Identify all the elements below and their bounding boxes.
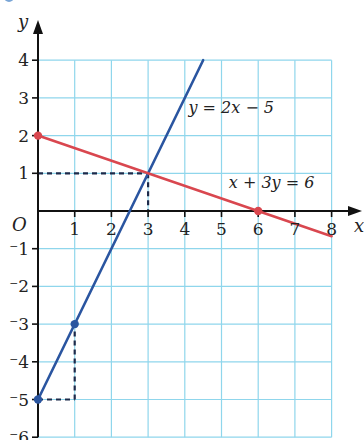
origin-label: O xyxy=(12,214,27,235)
grid xyxy=(38,60,332,437)
x-tick-label: 6 xyxy=(253,219,264,239)
y-tick-label: 4 xyxy=(18,50,29,70)
x-tick-label: 3 xyxy=(143,219,154,239)
x-tick-label: 4 xyxy=(179,219,190,239)
marked-point xyxy=(71,320,79,328)
y-tick-label: ⁻4 xyxy=(9,352,29,372)
y-tick-label: 3 xyxy=(18,88,29,108)
x-axis-label: x xyxy=(354,215,364,236)
y-tick-label: ⁻6 xyxy=(9,427,29,440)
y-tick-label: ⁻5 xyxy=(9,390,29,410)
y-axis-arrow-icon xyxy=(33,20,43,34)
y-tick-label: ⁻1 xyxy=(9,239,29,259)
marked-point xyxy=(34,395,42,403)
x-tick-label: 2 xyxy=(106,219,117,239)
y-tick-label: ⁻2 xyxy=(9,276,29,296)
x-tick-label: 5 xyxy=(216,219,227,239)
y-tick-label: 2 xyxy=(18,126,29,146)
marked-point xyxy=(254,207,262,215)
x-tick-label: 8 xyxy=(326,219,337,239)
y-tick-label: ⁻3 xyxy=(9,314,29,334)
tick-labels: 123456784321⁻1⁻2⁻3⁻4⁻5⁻6yxO xyxy=(9,11,364,440)
y-axis-label: y xyxy=(17,11,29,32)
x-tick-label: 7 xyxy=(289,219,300,239)
line-y-equals-2x-minus-5 xyxy=(38,60,203,399)
linear-graph: 123456784321⁻1⁻2⁻3⁻4⁻5⁻6yxO y = 2x − 5x … xyxy=(0,0,364,440)
x-tick-label: 1 xyxy=(69,219,80,239)
marked-point xyxy=(34,131,42,139)
label-x-plus-3y-equals-6: x + 3y = 6 xyxy=(229,173,315,192)
label-y-equals-2x-minus-5: y = 2x − 5 xyxy=(187,98,274,117)
y-tick-label: 1 xyxy=(18,163,29,183)
